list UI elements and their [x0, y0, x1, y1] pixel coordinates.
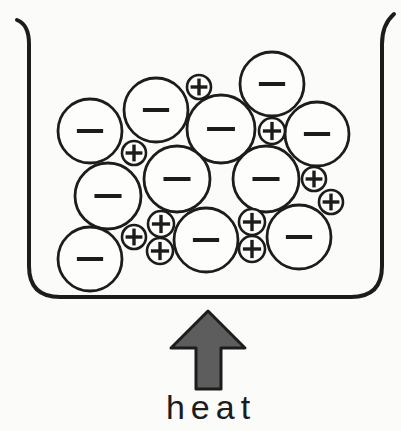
cation-particle	[148, 211, 174, 237]
cation-particle	[239, 236, 265, 262]
cation-particle	[239, 209, 265, 235]
particle-diagram: heat	[0, 0, 401, 431]
anion-particle	[240, 52, 304, 116]
anion-particle	[58, 99, 122, 163]
anion-particle	[267, 205, 331, 269]
cation-particle	[259, 118, 285, 144]
diagram-canvas: heat	[0, 0, 401, 431]
cation-particle	[147, 238, 173, 264]
cation-particle	[319, 190, 343, 214]
anion-particle	[124, 78, 188, 142]
anion-particle	[58, 227, 122, 291]
cation-particle	[187, 75, 211, 99]
anion-particle	[174, 208, 238, 272]
heat-label: heat	[166, 388, 256, 426]
anion-particle	[144, 146, 210, 212]
anion-particle	[75, 163, 141, 229]
cation-particle	[122, 225, 146, 249]
anion-particle	[233, 146, 299, 212]
cation-particle	[302, 167, 326, 191]
cation-particle	[122, 141, 146, 165]
anion-particle	[285, 102, 349, 166]
